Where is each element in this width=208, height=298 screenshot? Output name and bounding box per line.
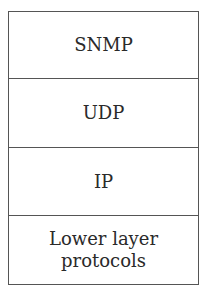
layer-label: Lower layer protocols <box>49 228 158 272</box>
layer-label-line-1: Lower layer <box>49 228 158 250</box>
layer-label-line-2: protocols <box>49 250 158 272</box>
layer-label: IP <box>94 171 113 193</box>
layer-udp: UDP <box>9 78 198 147</box>
layer-ip: IP <box>9 147 198 215</box>
protocol-stack: SNMP UDP IP Lower layer protocols <box>8 11 199 285</box>
layer-snmp: SNMP <box>9 12 198 78</box>
layer-lower-layer-protocols: Lower layer protocols <box>9 215 198 284</box>
layer-label: UDP <box>83 102 125 124</box>
layer-label: SNMP <box>74 34 133 56</box>
